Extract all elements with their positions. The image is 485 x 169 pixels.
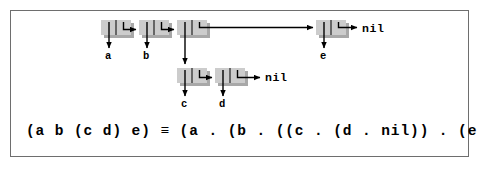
cons-cell-a <box>101 20 131 35</box>
figure-canvas: a b c d e nil nil (a b (c d) e) ≡ (a . (… <box>0 0 485 169</box>
nil-label-bottom: nil <box>265 71 288 84</box>
equivalence-formula: (a b (c d) e) ≡ (a . (b . ((c . (d . nil… <box>26 123 456 139</box>
cons-cell-d <box>215 68 245 83</box>
atom-label-a: a <box>105 50 111 62</box>
atom-label-b: b <box>143 50 149 62</box>
atom-label-d: d <box>219 98 225 110</box>
atom-label-e: e <box>320 50 326 62</box>
nil-label-top: nil <box>362 22 385 35</box>
cons-cell-b <box>139 20 169 35</box>
atom-label-c: c <box>181 98 187 110</box>
cons-cell-c <box>177 68 207 83</box>
cons-cell-diagram <box>0 0 485 169</box>
